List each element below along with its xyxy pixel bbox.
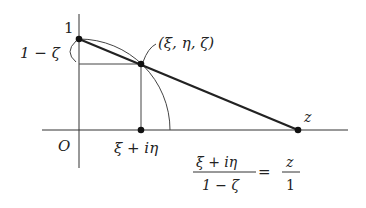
formula-rhs-numerator: z xyxy=(285,154,294,170)
formula-equals: = xyxy=(258,163,271,181)
label-height: 1 − ζ xyxy=(20,44,61,62)
formula-rhs-denominator: 1 xyxy=(286,177,295,193)
label-origin: O xyxy=(58,137,70,155)
sphere-arc xyxy=(79,39,170,130)
height-brace xyxy=(70,41,76,62)
formula-lhs-numerator: ξ + iη xyxy=(196,154,238,170)
label-leader xyxy=(143,44,156,62)
projection-ray xyxy=(79,39,298,130)
formula-lhs-denominator: 1 − ζ xyxy=(202,177,241,193)
label-projection-foot: ξ + iη xyxy=(114,139,158,157)
label-top-point: 1 xyxy=(64,19,74,37)
label-sphere-point: (ξ, η, ζ) xyxy=(158,34,214,52)
projection-foot-point xyxy=(138,127,145,134)
plane-point-z xyxy=(295,127,302,134)
projection-formula: ξ + iη 1 − ζ = z 1 xyxy=(193,154,300,193)
sphere-point xyxy=(138,61,145,68)
stereographic-diagram: 1 1 − ζ (ξ, η, ζ) O ξ + iη z ξ + iη 1 − … xyxy=(0,0,366,208)
label-plane-point: z xyxy=(303,109,312,125)
north-pole-point xyxy=(76,36,83,43)
